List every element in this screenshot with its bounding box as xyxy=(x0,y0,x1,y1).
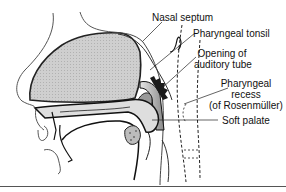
label-line: auditory tube xyxy=(194,59,250,70)
label-soft-palate: Soft palate xyxy=(222,115,270,126)
label-opening-auditory-tube: Opening of auditory tube xyxy=(194,48,250,70)
label-pharyngeal-tonsil: Pharyngeal tonsil xyxy=(193,28,270,39)
label-line: Pharyngeal xyxy=(208,78,284,89)
label-pharyngeal-recess: Pharyngeal recess (of Rosenmüller) xyxy=(208,78,284,111)
bottom-divider xyxy=(0,186,286,187)
label-line: Opening of xyxy=(194,48,250,59)
label-line: recess xyxy=(208,89,284,100)
label-line: (of Rosenmüller) xyxy=(208,100,284,111)
anatomy-diagram: Nasal septum Pharyngeal tonsil Opening o… xyxy=(0,0,286,192)
label-nasal-septum: Nasal septum xyxy=(152,12,213,23)
